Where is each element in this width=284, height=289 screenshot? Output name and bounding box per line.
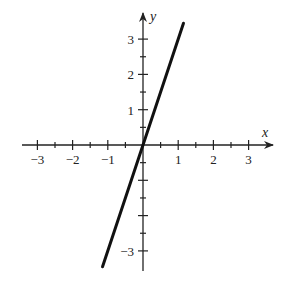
y-tick-label: 1 [128, 103, 135, 118]
x-tick-label: −2 [66, 152, 80, 167]
x-axis-label: x [261, 125, 269, 140]
x-tick-label: 2 [210, 152, 217, 167]
y-axis-label: y [148, 9, 157, 24]
x-tick-label: 1 [175, 152, 182, 167]
x-tick-label: −1 [101, 152, 115, 167]
x-tick-label: −3 [30, 152, 44, 167]
chart: −3−2−1123 321−3 x y [0, 0, 284, 289]
y-tick-label: 3 [128, 32, 135, 47]
x-tick-label: 3 [245, 152, 252, 167]
axes: −3−2−1123 321−3 x y [22, 9, 273, 271]
y-tick-label: 2 [128, 67, 135, 82]
y-tick-label: −3 [120, 244, 134, 259]
